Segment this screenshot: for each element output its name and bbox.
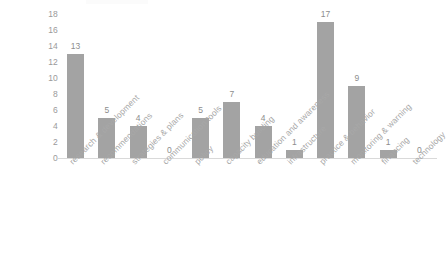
bar-value-label: 17 bbox=[311, 10, 340, 19]
bar-slot: 13 bbox=[61, 14, 90, 158]
bar-value-label: 7 bbox=[217, 90, 246, 99]
y-axis-tick-label: 16 bbox=[36, 26, 58, 34]
y-axis-tick-label: 2 bbox=[36, 138, 58, 146]
y-axis: 181614121086420 bbox=[36, 14, 58, 160]
bar-value-label: 13 bbox=[61, 42, 90, 51]
y-axis-tick-label: 4 bbox=[36, 122, 58, 130]
bar-slot: 0 bbox=[405, 14, 434, 158]
y-axis-tick-label: 14 bbox=[36, 42, 58, 50]
y-axis-tick-label: 0 bbox=[36, 154, 58, 162]
bar-slot: 7 bbox=[217, 14, 246, 158]
bar[interactable] bbox=[67, 54, 84, 158]
x-axis-category-labels: research & developmentrecommendationsstr… bbox=[60, 160, 441, 257]
y-axis-tick-label: 10 bbox=[36, 74, 58, 82]
y-axis-tick-label: 8 bbox=[36, 90, 58, 98]
cropped-title-artifact bbox=[86, 0, 148, 4]
y-axis-tick-label: 18 bbox=[36, 10, 58, 18]
bar-value-label: 9 bbox=[342, 74, 371, 83]
y-axis-tick-label: 6 bbox=[36, 106, 58, 114]
y-axis-tick-label: 12 bbox=[36, 58, 58, 66]
